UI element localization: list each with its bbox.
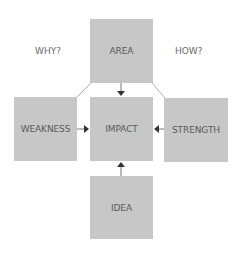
idea-box: IDEA bbox=[90, 176, 153, 239]
arrow-up-icon bbox=[117, 162, 125, 167]
how-label: HOW? bbox=[175, 46, 203, 56]
area-box: AREA bbox=[90, 19, 153, 83]
area-strength-link bbox=[152, 83, 165, 98]
why-label: WHY? bbox=[35, 46, 61, 56]
arrow-left-icon bbox=[154, 125, 159, 133]
arrow-down-icon bbox=[117, 91, 125, 96]
area-weakness-link bbox=[77, 83, 91, 97]
idea-label: IDEA bbox=[111, 203, 132, 213]
weakness-box: WEAKNESS bbox=[14, 97, 77, 161]
arrow-right-icon bbox=[84, 125, 89, 133]
area-label: AREA bbox=[110, 46, 134, 56]
strength-label: STRENGTH bbox=[172, 125, 220, 135]
impact-label: IMPACT bbox=[105, 124, 137, 134]
weakness-label: WEAKNESS bbox=[21, 124, 71, 134]
strength-box: STRENGTH bbox=[164, 98, 228, 162]
impact-box: IMPACT bbox=[90, 97, 153, 161]
